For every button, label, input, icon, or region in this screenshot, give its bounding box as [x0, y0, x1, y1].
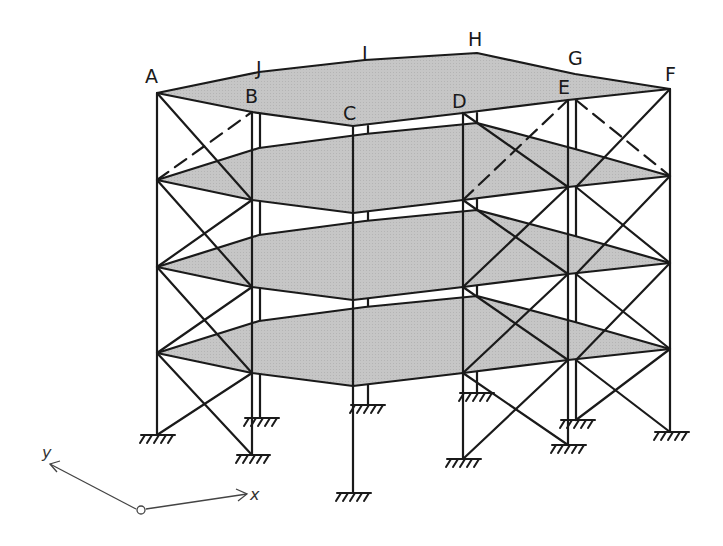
support-D	[446, 459, 481, 467]
origin-marker	[137, 506, 145, 514]
y-axis-line	[50, 464, 136, 509]
node-label-J: J	[256, 59, 262, 78]
node-label-G: G	[568, 49, 583, 68]
support-I	[350, 405, 385, 413]
x-axis-line	[146, 494, 247, 509]
support-H	[459, 393, 494, 401]
node-label-A: A	[145, 67, 158, 86]
support-C	[336, 493, 371, 501]
node-label-E: E	[558, 78, 570, 97]
support-J	[244, 418, 279, 426]
support-G	[560, 420, 595, 428]
support-E	[551, 445, 586, 453]
node-label-D: D	[452, 92, 467, 111]
axis-label-x: x	[250, 487, 259, 503]
support-A	[140, 435, 175, 443]
node-label-C: C	[343, 104, 356, 123]
support-F	[654, 432, 689, 440]
coordinate-axes	[50, 461, 247, 514]
support-B	[236, 455, 270, 463]
axis-label-y: y	[42, 445, 51, 461]
structural-frame-diagram	[0, 0, 723, 546]
fixed-supports	[140, 393, 689, 501]
node-label-I: I	[362, 44, 368, 63]
node-label-H: H	[468, 30, 482, 49]
node-label-F: F	[665, 65, 676, 84]
node-label-B: B	[245, 87, 258, 106]
